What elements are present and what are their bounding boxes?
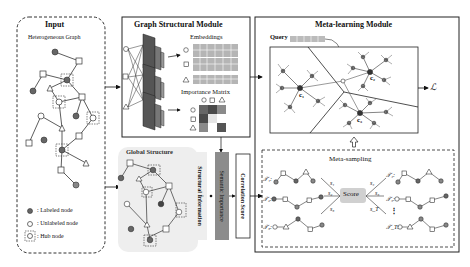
multiply-operator — [210, 195, 213, 198]
input-title: Input — [45, 20, 64, 29]
heterogeneous-graph-label: Heterogeneous Graph — [28, 34, 80, 40]
task-chain-4 — [396, 169, 443, 184]
metric-space — [270, 47, 418, 133]
correlation-score-label: Correlation Score — [240, 173, 246, 219]
cluster-c2-label: c₂ — [370, 74, 375, 82]
score-s4: s₄ — [370, 180, 374, 186]
input-panel — [17, 17, 105, 253]
task-3-label: 𝒯₃: — [263, 224, 272, 231]
task-1-label: 𝒯₁: — [263, 176, 272, 183]
score-s3: s₃ — [330, 206, 334, 212]
importance-matrix — [199, 105, 226, 132]
cluster-c1-label: c₁ — [299, 91, 304, 99]
task-5-label: 𝒯₅: — [386, 196, 395, 203]
meta-learning-module-title: Meta-learning Module — [315, 20, 392, 29]
legend-hub-node: : Hub node — [37, 233, 64, 239]
query-point — [341, 79, 345, 83]
task-chain-3 — [273, 217, 324, 232]
score-s5: s₅ — [375, 190, 379, 196]
structural-information-label: Structural Information — [197, 166, 203, 226]
global-structure-title: Global Structure — [126, 148, 173, 155]
query-label: Query — [270, 33, 288, 40]
heterogeneous-graph-nodes — [26, 49, 99, 188]
task-2-label: 𝒯₂: — [263, 196, 272, 203]
graph-structural-module-title: Graph Structural Module — [134, 20, 222, 29]
graph-structural-module — [122, 17, 250, 137]
global-structure-panel — [118, 147, 198, 252]
task-T-label: 𝒯_T: — [386, 224, 399, 231]
embeddings-label: Embeddings — [190, 33, 223, 40]
task-chain-2 — [272, 195, 323, 209]
legend-unlabeled-node: : Unlabeled node — [37, 220, 78, 226]
task-chain-1 — [274, 169, 315, 184]
up-arrow-icon — [350, 137, 358, 147]
loss-label: ℒ — [430, 82, 436, 92]
task-chain-T — [398, 217, 448, 232]
labeled-node-icon — [28, 209, 33, 214]
legend-labeled-node: : Labeled node — [37, 207, 73, 213]
unlabeled-node-icon — [28, 222, 33, 227]
score-sT: s_T — [370, 206, 379, 212]
task-4-label: 𝒯₄: — [386, 172, 395, 179]
semantic-importance-label: Semantic Importance — [219, 170, 225, 221]
importance-matrix-label: Importance Matrix — [181, 88, 230, 95]
meta-sampling-title: Meta-sampling — [329, 155, 371, 163]
cluster-c3-label: c₃ — [357, 116, 362, 124]
score-s2: s₂ — [328, 190, 332, 196]
task-chain-5 — [395, 194, 448, 209]
ellipsis: ⋮ — [390, 206, 398, 215]
query-embedding — [290, 36, 325, 42]
diagram-canvas — [0, 0, 470, 267]
score-label: Score — [343, 190, 359, 198]
score-s1: s₁ — [330, 180, 334, 186]
